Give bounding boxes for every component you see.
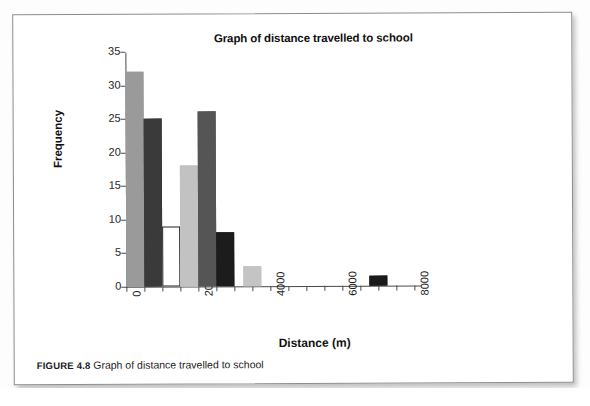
y-tick-label: 30: [91, 79, 120, 90]
x-tick-mark: [162, 287, 163, 292]
x-tick-mark: [270, 286, 271, 291]
bar: [180, 166, 199, 287]
x-tick-mark: [252, 286, 253, 291]
chart-figure: Graph of distance travelled to school Fr…: [13, 13, 572, 351]
plot-area: Frequency 05101520253035 020004000600080…: [13, 13, 572, 351]
y-tick-mark: [120, 52, 125, 53]
bar: [162, 226, 180, 286]
y-tick-label: 20: [92, 146, 121, 157]
x-tick-mark: [198, 286, 199, 291]
x-tick-mark: [234, 286, 235, 291]
x-tick-label: 8000: [419, 271, 430, 296]
y-axis-title: Frequency: [52, 89, 64, 189]
x-tick-mark: [180, 286, 181, 291]
y-tick-label: 35: [91, 46, 120, 57]
y-tick-label: 10: [92, 214, 121, 225]
bar: [144, 119, 163, 287]
page-frame: Graph of distance travelled to school Fr…: [12, 12, 574, 385]
x-tick-mark: [342, 286, 343, 291]
y-tick-label-text: 15: [97, 180, 121, 191]
y-tick-label-text: 5: [97, 247, 121, 258]
bar: [216, 233, 234, 287]
y-axis-ticks: 05101520253035: [13, 13, 571, 15]
x-tick-label: 4000: [275, 272, 286, 297]
x-tick-mark: [144, 287, 145, 292]
scanned-page: Graph of distance travelled to school Fr…: [0, 0, 590, 406]
x-tick-mark: [288, 286, 289, 291]
y-tick-label: 15: [92, 180, 121, 191]
x-tick-mark: [396, 286, 397, 291]
x-tick-label: 6000: [347, 271, 358, 296]
y-tick-label-text: 10: [97, 214, 121, 225]
y-tick-label-text: 20: [97, 146, 121, 157]
x-tick-mark: [324, 286, 325, 291]
bar: [198, 112, 217, 287]
y-tick-label-text: 0: [97, 281, 121, 292]
y-tick-label: 25: [92, 113, 121, 124]
figure-number: FIGURE 4.8: [37, 360, 91, 371]
x-tick-mark: [126, 287, 127, 292]
x-tick-mark: [306, 286, 307, 291]
y-tick-label-text: 30: [96, 79, 120, 90]
x-tick-mark: [360, 286, 361, 291]
y-tick-label: 5: [92, 247, 121, 258]
x-axis-title: Distance (m): [165, 335, 465, 350]
y-tick-label-text: 25: [97, 113, 121, 124]
figure-caption-text: Graph of distance travelled to school: [93, 358, 263, 371]
x-tick-mark: [216, 286, 217, 291]
y-tick-label-text: 35: [96, 46, 120, 57]
x-tick-mark: [378, 286, 379, 291]
x-axis-ticks: 02000400060008000: [13, 13, 571, 15]
bar-series: [13, 13, 571, 15]
scan-margin: [0, 388, 590, 406]
bar: [369, 276, 387, 286]
x-tick-label: 0: [131, 291, 142, 297]
bar: [243, 266, 261, 286]
bar: [125, 72, 144, 287]
figure-caption: FIGURE 4.8 Graph of distance travelled t…: [37, 358, 264, 371]
x-tick-mark: [414, 285, 415, 290]
y-tick-label: 0: [92, 281, 121, 292]
